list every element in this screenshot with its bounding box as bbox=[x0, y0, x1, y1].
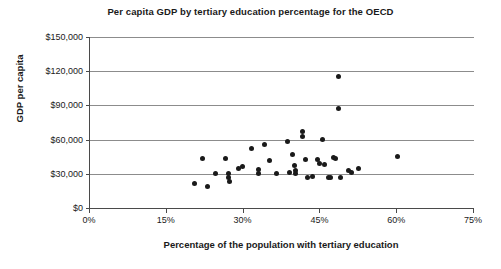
data-point bbox=[192, 181, 197, 186]
x-axis-tick bbox=[89, 208, 90, 213]
data-point bbox=[274, 171, 279, 176]
data-point bbox=[328, 175, 333, 180]
gridline-horizontal bbox=[90, 37, 474, 38]
data-point bbox=[356, 166, 361, 171]
x-axis-tick-label: 60% bbox=[374, 215, 418, 225]
gridline-horizontal bbox=[90, 174, 474, 175]
x-axis-tick bbox=[396, 208, 397, 213]
x-axis-tick bbox=[166, 208, 167, 213]
data-point bbox=[336, 106, 341, 111]
x-axis-tick bbox=[243, 208, 244, 213]
y-axis-tick bbox=[86, 140, 90, 141]
y-axis-tick-label: $30,000 bbox=[13, 169, 83, 179]
x-axis-tick-label: 45% bbox=[297, 215, 341, 225]
data-point bbox=[293, 171, 298, 176]
data-point bbox=[290, 152, 295, 157]
x-axis-tick-label: 30% bbox=[221, 215, 265, 225]
x-axis-tick-label: 75% bbox=[451, 215, 495, 225]
x-axis-tick bbox=[319, 208, 320, 213]
data-point bbox=[227, 179, 232, 184]
data-point bbox=[322, 162, 327, 167]
scatter-chart: Per capita GDP by tertiary education per… bbox=[0, 0, 501, 269]
data-point bbox=[285, 139, 290, 144]
x-axis-tick-label: 0% bbox=[67, 215, 111, 225]
data-point bbox=[240, 164, 245, 169]
y-axis-tick bbox=[86, 37, 90, 38]
x-axis-label: Percentage of the population with tertia… bbox=[89, 239, 473, 250]
data-point bbox=[303, 157, 308, 162]
gridline-horizontal bbox=[90, 71, 474, 72]
data-point bbox=[256, 171, 261, 176]
data-point bbox=[338, 175, 343, 180]
y-axis-tick-label: $0 bbox=[13, 203, 83, 213]
data-point bbox=[267, 158, 272, 163]
x-axis-tick-label: 15% bbox=[144, 215, 188, 225]
data-point bbox=[300, 134, 305, 139]
data-point bbox=[336, 74, 341, 79]
y-axis-tick bbox=[86, 71, 90, 72]
data-point bbox=[249, 146, 254, 151]
data-point bbox=[205, 184, 210, 189]
x-axis-line bbox=[89, 208, 474, 209]
data-point bbox=[395, 154, 400, 159]
data-point bbox=[349, 170, 354, 175]
y-axis-tick bbox=[86, 105, 90, 106]
plot-area bbox=[89, 37, 474, 208]
gridline-horizontal bbox=[90, 140, 474, 141]
gridline-horizontal bbox=[90, 105, 474, 106]
x-axis-tick bbox=[473, 208, 474, 213]
data-point bbox=[200, 156, 205, 161]
data-point bbox=[333, 156, 338, 161]
y-axis-tick bbox=[86, 174, 90, 175]
data-point bbox=[223, 156, 228, 161]
data-point bbox=[262, 142, 267, 147]
data-point bbox=[310, 174, 315, 179]
data-point bbox=[213, 171, 218, 176]
data-point bbox=[320, 137, 325, 142]
y-axis-label: GDP per capita bbox=[14, 24, 25, 154]
